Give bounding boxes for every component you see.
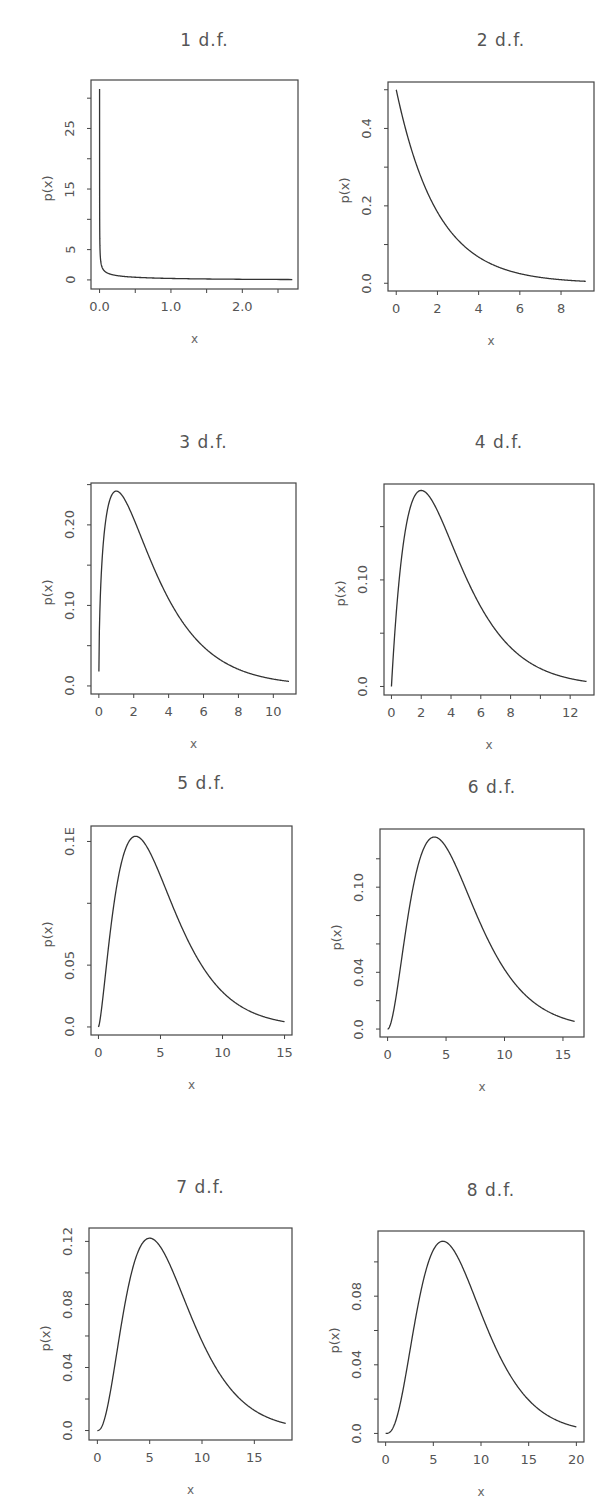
y-tick-label: 0.08 bbox=[349, 1282, 364, 1311]
y-tick-label: 0.0 bbox=[349, 1423, 364, 1444]
x-tick-label: 20 bbox=[568, 1452, 585, 1467]
x-axis-label: x bbox=[477, 1485, 484, 1499]
y-axis-label: p(x) bbox=[327, 1327, 342, 1353]
x-tick-label: 5 bbox=[429, 1452, 437, 1467]
x-tick-label: 0 bbox=[381, 1452, 389, 1467]
plot-area bbox=[0, 0, 611, 1504]
density-curve bbox=[386, 1241, 577, 1433]
y-tick-label: 0.04 bbox=[349, 1350, 364, 1379]
plot-frame bbox=[378, 1231, 584, 1442]
x-tick-label: 15 bbox=[520, 1452, 537, 1467]
x-tick-label: 10 bbox=[473, 1452, 490, 1467]
